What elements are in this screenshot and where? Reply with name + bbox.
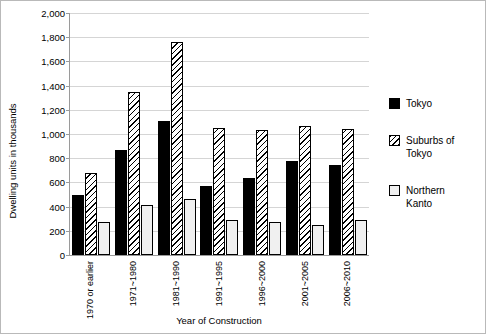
x-axis-tick-label-text: 1971~1980	[128, 261, 138, 306]
x-axis-tick-label-text: 1996~2000	[257, 261, 267, 306]
y-axis-tick-label: 1,400	[41, 80, 65, 91]
y-axis-tick-label: 800	[49, 153, 65, 164]
y-axis-title: Dwelling units in thousands	[5, 61, 19, 261]
y-axis-tick-label: 1,800	[41, 32, 65, 43]
bar-chart: Dwelling units in thousands 020040060080…	[0, 0, 486, 334]
legend-swatch	[389, 135, 400, 146]
x-axis-tick-label-text: 2001~2005	[300, 261, 310, 306]
bar	[141, 205, 153, 255]
x-axis-tick-label-text: 1970 or earlier	[85, 261, 95, 319]
legend-label: Suburbs of Tokyo	[406, 134, 454, 160]
x-axis-tick-label: 2006~2010	[327, 257, 367, 317]
y-axis-tick-label: 400	[49, 201, 65, 212]
x-axis-tick-label: 1981~1990	[156, 257, 196, 317]
legend-item: Suburbs of Tokyo	[389, 134, 481, 160]
bar-group	[286, 13, 324, 255]
bar	[200, 186, 212, 255]
bar	[312, 225, 324, 255]
x-axis-title: Year of Construction	[69, 315, 369, 326]
bar	[256, 130, 268, 255]
x-axis-tick-label-text: 2006~2010	[342, 261, 352, 306]
x-axis-tick-labels: 1970 or earlier1971~19801981~19901991~19…	[69, 257, 369, 317]
legend-swatch	[389, 98, 400, 109]
bar	[158, 121, 170, 255]
bar-groups	[70, 13, 369, 255]
y-axis-tick-label: 0	[60, 250, 65, 261]
bar	[269, 222, 281, 255]
x-axis-tick-label-text: 1991~1995	[214, 261, 224, 306]
x-axis-tick-label: 1971~1980	[113, 257, 153, 317]
x-axis-tick-label-text: 1981~1990	[171, 261, 181, 306]
y-axis-tickmark	[66, 255, 70, 256]
legend-swatch	[389, 185, 400, 196]
bar-group	[72, 13, 110, 255]
bar	[342, 129, 354, 255]
bar	[355, 220, 367, 255]
legend-item: Northern Kanto	[389, 184, 481, 210]
x-axis-tick-label: 1991~1995	[199, 257, 239, 317]
bar	[286, 161, 298, 255]
bar	[329, 165, 341, 255]
legend-label: Tokyo	[406, 97, 432, 110]
bar-group	[200, 13, 238, 255]
bar	[299, 126, 311, 255]
x-axis-tick-label: 1970 or earlier	[70, 257, 110, 317]
x-axis-tick-label: 2001~2005	[285, 257, 325, 317]
bar-group	[115, 13, 153, 255]
bar	[115, 150, 127, 255]
plot-area: 02004006008001,0001,2001,4001,6001,8002,…	[69, 13, 369, 256]
bar	[72, 195, 84, 256]
y-axis-tick-label: 200	[49, 225, 65, 236]
bar-group	[329, 13, 367, 255]
bar	[85, 173, 97, 255]
legend: TokyoSuburbs of TokyoNorthern Kanto	[389, 97, 481, 234]
bar	[98, 222, 110, 255]
legend-label: Northern Kanto	[406, 184, 445, 210]
y-axis-tick-label: 1,000	[41, 129, 65, 140]
y-axis-tick-label: 2,000	[41, 8, 65, 19]
bar	[171, 42, 183, 255]
y-axis-tick-label: 600	[49, 177, 65, 188]
legend-item: Tokyo	[389, 97, 481, 110]
bar-group	[243, 13, 281, 255]
bar-group	[158, 13, 196, 255]
bar	[226, 220, 238, 255]
y-axis-tick-label: 1,600	[41, 56, 65, 67]
bar	[128, 92, 140, 255]
bar	[184, 199, 196, 255]
x-axis-tick-label: 1996~2000	[242, 257, 282, 317]
y-axis-tick-label: 1,200	[41, 104, 65, 115]
bar	[213, 128, 225, 255]
bar	[243, 178, 255, 255]
